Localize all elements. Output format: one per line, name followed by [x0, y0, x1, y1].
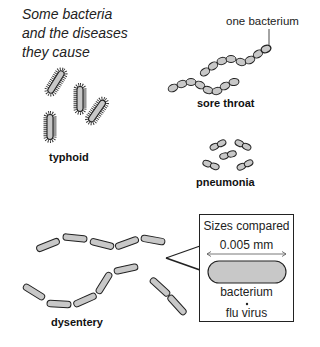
- label-pneumonia: pneumonia: [196, 176, 255, 188]
- inset-virus-label: flu virus: [200, 306, 293, 320]
- typhoid-rod-3: [85, 97, 108, 125]
- flu-virus-dot: [246, 303, 248, 305]
- typhoid-rod-4: [46, 113, 55, 141]
- typhoid-rod-2: [76, 85, 85, 113]
- dysentery-chain-1: [36, 234, 166, 253]
- callout-pointer: [166, 246, 200, 270]
- label-sore-throat: sore throat: [197, 97, 254, 109]
- dysentery-chain-3: [149, 277, 187, 316]
- pneumonia-diplococci: [202, 139, 254, 172]
- scale-arrow-icon: [207, 252, 286, 257]
- typhoid-bacteria: [45, 68, 109, 141]
- inset-bacterium-label: bacterium: [200, 285, 293, 299]
- label-dysentery: dysentery: [51, 316, 103, 328]
- one-bacterium-annotation: one bacterium: [226, 15, 299, 27]
- sore-throat-chain-2: [167, 78, 240, 96]
- inset-bacterium-shape: [208, 261, 286, 283]
- sore-throat-chain-1: [199, 44, 272, 78]
- typhoid-rod-1: [45, 68, 67, 97]
- label-typhoid: typhoid: [49, 151, 89, 163]
- dysentery-chain-2: [22, 263, 138, 307]
- size-comparison-inset: Sizes compared 0.005 mm bacterium flu vi…: [199, 214, 294, 322]
